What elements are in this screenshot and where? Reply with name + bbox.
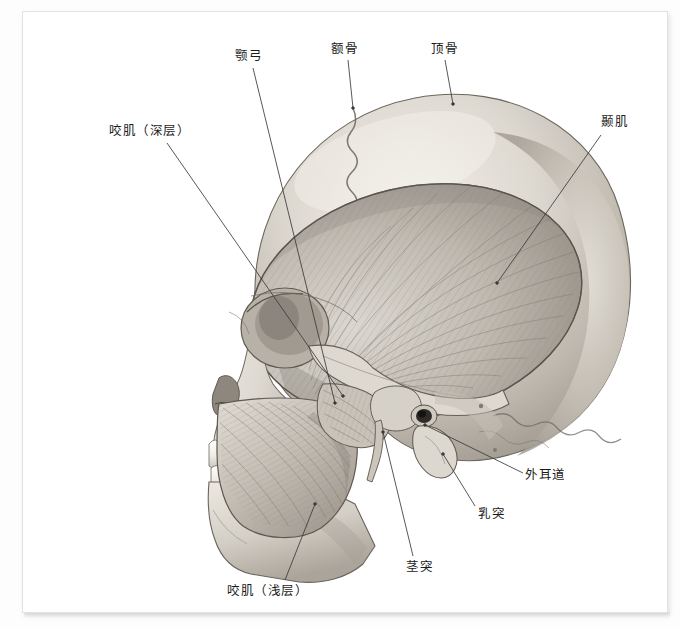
label-temporalis: 颞肌 bbox=[601, 115, 628, 129]
screenshot-root: 咬肌（深层）颚弓额骨顶骨颞肌外耳道乳突茎突咬肌（浅层） bbox=[0, 0, 680, 628]
label-styloid-process: 茎突 bbox=[406, 560, 433, 574]
label-frontal-bone: 额骨 bbox=[331, 42, 358, 56]
skull-illustration bbox=[23, 12, 667, 612]
label-mastoid-process: 乳突 bbox=[478, 507, 505, 521]
external-acoustic-meatus-opening bbox=[411, 405, 437, 427]
leader-line-styloid-process bbox=[383, 432, 413, 556]
leader-line-frontal-bone bbox=[348, 60, 353, 108]
label-masseter-superficial: 咬肌（浅层） bbox=[227, 584, 308, 598]
label-masseter-deep: 咬肌（深层） bbox=[109, 124, 190, 138]
label-zygomatic-arch: 颚弓 bbox=[235, 49, 262, 63]
label-external-acoustic-meatus: 外耳道 bbox=[525, 468, 566, 482]
anatomy-plate: 咬肌（深层）颚弓额骨顶骨颞肌外耳道乳突茎突咬肌（浅层） bbox=[22, 11, 668, 613]
label-parietal-bone: 顶骨 bbox=[431, 42, 458, 56]
